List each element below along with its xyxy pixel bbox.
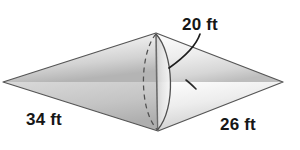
right-slant-dimension-label: 26 ft: [220, 116, 256, 133]
left-slant-dimension-label: 34 ft: [26, 111, 62, 128]
radius-dimension-label: 20 ft: [182, 16, 218, 33]
cone-figure-container: 20 ft 34 ft 26 ft: [0, 0, 300, 150]
